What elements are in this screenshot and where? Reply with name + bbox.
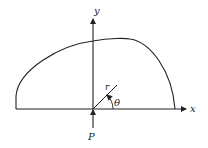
angle-label: θ	[114, 97, 120, 108]
x-axis-label: x	[190, 103, 196, 114]
boundary-curve	[16, 38, 175, 109]
diagram-canvas: y x r θ P	[0, 0, 208, 148]
force-label: P	[87, 131, 95, 142]
angle-arc	[107, 95, 113, 109]
radius-label: r	[105, 82, 110, 92]
y-axis-label: y	[93, 5, 100, 16]
